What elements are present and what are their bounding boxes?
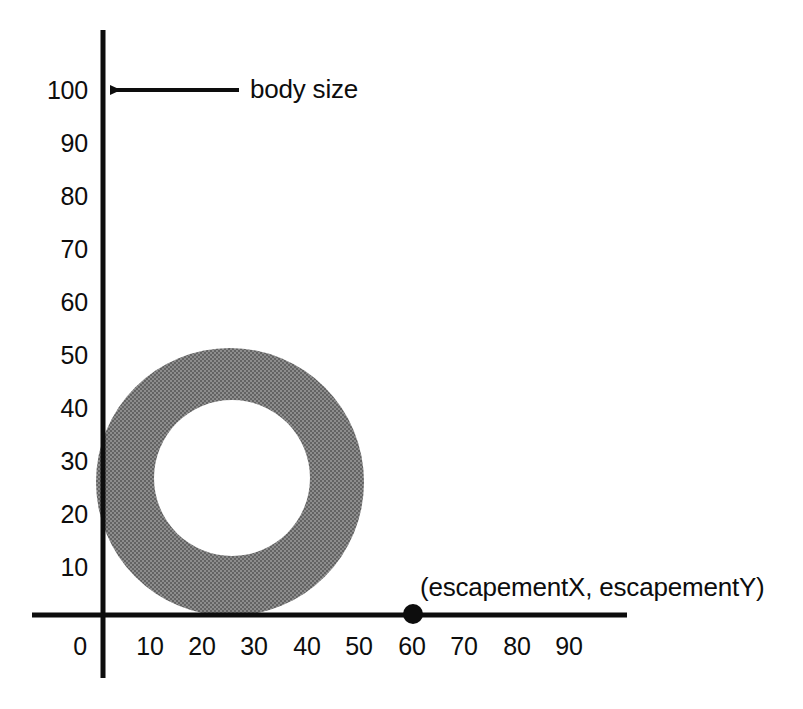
y-tick-label-10: 10 (10, 555, 88, 580)
escapement-point-marker (403, 604, 423, 624)
y-tick-label-20: 20 (10, 502, 88, 527)
body-size-label: body size (250, 76, 358, 102)
x-tick-label-20: 20 (172, 634, 232, 659)
x-tick-label-0: 0 (50, 634, 110, 659)
y-tick-label-100: 100 (10, 78, 88, 103)
x-tick-label-90: 90 (539, 634, 599, 659)
x-tick-label-60: 60 (382, 634, 442, 659)
plot-svg (0, 0, 803, 709)
y-tick-label-30: 30 (10, 449, 88, 474)
x-tick-label-50: 50 (329, 634, 389, 659)
escapement-point-label: (escapementX, escapementY) (420, 574, 765, 600)
y-tick-label-40: 40 (10, 396, 88, 421)
x-tick-label-70: 70 (434, 634, 494, 659)
body-annulus-shape (90, 340, 380, 625)
y-tick-label-70: 70 (10, 237, 88, 262)
y-tick-label-80: 80 (10, 184, 88, 209)
y-tick-label-50: 50 (10, 343, 88, 368)
x-tick-label-80: 80 (487, 634, 547, 659)
x-tick-label-40: 40 (277, 634, 337, 659)
x-tick-label-30: 30 (224, 634, 284, 659)
figure-canvas: 100 90 80 70 60 50 40 30 20 10 0 10 20 3… (0, 0, 803, 709)
y-tick-label-60: 60 (10, 290, 88, 315)
y-tick-label-90: 90 (10, 131, 88, 156)
x-tick-label-10: 10 (120, 634, 180, 659)
